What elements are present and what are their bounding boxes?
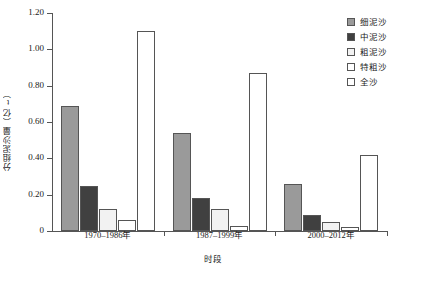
y-tick: 0.80 [47,86,52,87]
legend-swatch-icon [347,78,355,86]
y-tick: 0.40 [47,158,52,159]
y-tick-label: 1.00 [28,43,44,54]
bar [249,73,267,231]
y-tick-label: 0.60 [28,116,44,127]
x-tick [387,231,388,236]
y-tick: 0.60 [47,122,52,123]
bar [61,106,79,231]
plot-area: 00.200.400.600.801.001.20 [52,13,387,231]
x-axis-title: 时段 [0,252,426,264]
legend-label: 全沙 [360,77,378,87]
bar [80,186,98,231]
legend-item: 粗泥沙 [347,45,421,59]
y-tick-label: 1.20 [28,7,44,18]
bar [284,184,302,231]
legend-swatch-icon [347,63,355,71]
y-tick: 1.00 [47,49,52,50]
legend-swatch-icon [347,48,355,56]
y-axis-title: 分组泥沙量（亿t） [0,60,16,200]
legend-label: 特粗沙 [360,62,387,72]
x-group-label: 2000–2012年 [308,228,355,240]
bar [192,198,210,231]
y-tick-label: 0.80 [28,80,44,91]
legend-label: 粗泥沙 [360,47,387,57]
legend-item: 特粗沙 [347,60,421,74]
x-tick [164,231,165,236]
chart-figure: 分组泥沙量（亿t） 00.200.400.600.801.001.20 1970… [0,0,426,282]
y-axis-line [52,13,53,231]
legend: 细泥沙中泥沙粗泥沙特粗沙全沙 [347,15,421,90]
x-group-label: 1987–1999年 [196,228,243,240]
legend-item: 细泥沙 [347,15,421,29]
legend-swatch-icon [347,33,355,41]
bar [360,155,378,231]
y-tick-label: 0 [40,225,45,236]
y-tick-label: 0.20 [28,189,44,200]
y-tick-label: 0.40 [28,152,44,163]
legend-label: 中泥沙 [360,32,387,42]
bar [173,133,191,231]
legend-swatch-icon [347,18,355,26]
x-group-label: 1970–1986年 [84,228,131,240]
x-tick [275,231,276,236]
legend-item: 中泥沙 [347,30,421,44]
bar [137,31,155,231]
legend-label: 细泥沙 [360,17,387,27]
y-tick: 0.20 [47,195,52,196]
y-tick: 0 [47,231,52,232]
legend-item: 全沙 [347,75,421,89]
y-tick: 1.20 [47,13,52,14]
